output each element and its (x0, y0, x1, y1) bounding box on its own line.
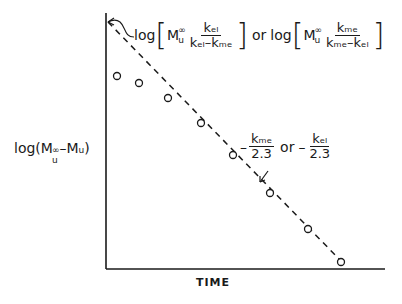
data-point (198, 120, 205, 127)
data-point (136, 80, 143, 87)
data-point (165, 95, 172, 102)
data-point (114, 73, 121, 80)
bracket-open-2: [ (292, 20, 304, 50)
slope-annotation: – kₘₑ2.3 or – kₑₗ2.3 (240, 132, 334, 161)
intercept-arrow (108, 20, 134, 37)
bracket-open: [ (155, 20, 167, 50)
intercept-frac1-num: kₑₗ (201, 21, 220, 36)
y-label-M2: M (66, 140, 78, 156)
intercept-u1: u (178, 35, 186, 45)
bracket-close: ] (236, 20, 248, 50)
intercept-fraction-2: kₘₑkₘₑ–kₑₗ (324, 21, 371, 50)
intercept-frac2-den: kₘₑ–kₑₗ (324, 36, 371, 50)
intercept-log2: log (270, 27, 291, 43)
y-label-sub: u (52, 155, 60, 165)
y-label-log: log( (14, 140, 41, 156)
intercept-M2-scripts: ∞u (315, 25, 323, 45)
bracket-close-2: ] (373, 20, 385, 50)
slope-minus1: – (240, 139, 247, 155)
y-axis-label: log(M∞u–Mu) (14, 140, 90, 165)
x-axis-label: TIME (196, 276, 230, 289)
intercept-or: or (252, 27, 266, 43)
intercept-M1-scripts: ∞u (178, 25, 186, 45)
intercept-inf1: ∞ (178, 25, 186, 35)
slope-minus2: – (298, 139, 305, 155)
intercept-fraction-1: kₑₗkₑₗ–kₘₑ (188, 21, 235, 50)
slope-frac1-den: 2.3 (249, 147, 274, 161)
slope-fraction-1: kₘₑ2.3 (249, 132, 274, 161)
slope-or: or (280, 139, 294, 155)
intercept-log1: log (134, 27, 155, 43)
intercept-frac1-den: kₑₗ–kₘₑ (188, 36, 235, 50)
slope-frac2-num: kₑₗ (310, 132, 329, 147)
intercept-frac2-num: kₘₑ (335, 21, 360, 36)
intercept-inf2: ∞ (315, 25, 323, 35)
data-point (267, 190, 274, 197)
slope-fraction-2: kₑₗ2.3 (307, 132, 332, 161)
data-point (230, 152, 237, 159)
slope-frac1-num: kₘₑ (249, 132, 274, 147)
intercept-u2: u (315, 35, 323, 45)
data-points (114, 73, 345, 266)
data-point (305, 226, 312, 233)
intercept-annotation: log [ M ∞u kₑₗkₑₗ–kₘₑ ] or log [ M ∞u kₘ… (134, 20, 384, 50)
y-label-close: ) (84, 140, 89, 156)
data-point (338, 259, 345, 266)
slope-frac2-den: 2.3 (307, 147, 332, 161)
